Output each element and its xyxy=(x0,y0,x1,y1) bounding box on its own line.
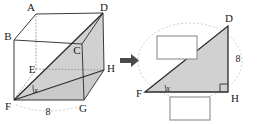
triangle-vertex-label-f: F xyxy=(136,87,142,99)
prism-vertex-label-b: B xyxy=(4,30,11,42)
prism-vertex-label-a: A xyxy=(27,1,35,13)
prism-vertex-label-f: F xyxy=(5,100,11,112)
prism-vertex-label-d: D xyxy=(100,1,108,13)
triangle-diagram: D F H 8 x xyxy=(136,12,242,120)
prism-vertex-label-c: C xyxy=(73,44,80,56)
triangle-angle-label-x: x xyxy=(165,84,170,93)
prism-diagram: A B C D E F G H 8 x xyxy=(4,1,115,117)
arrow-right-icon xyxy=(120,54,139,67)
triangle-vertex-label-d: D xyxy=(225,12,233,24)
prism-vertex-label-h: H xyxy=(107,62,115,74)
prism-base-length-label: 8 xyxy=(46,106,51,117)
answer-box-base[interactable] xyxy=(170,97,210,120)
transform-arrow xyxy=(120,54,139,67)
prism-angle-label-x: x xyxy=(33,86,38,95)
triangle-side-label-dh: 8 xyxy=(236,53,241,64)
geometry-figure: A B C D E F G H 8 x xyxy=(0,0,260,124)
figure-canvas: A B C D E F G H 8 x xyxy=(0,0,260,124)
prism-vertex-label-g: G xyxy=(79,102,87,114)
prism-vertex-label-e: E xyxy=(29,63,36,75)
answer-box-hypotenuse[interactable] xyxy=(157,36,197,59)
triangle-vertex-label-h: H xyxy=(231,92,239,104)
